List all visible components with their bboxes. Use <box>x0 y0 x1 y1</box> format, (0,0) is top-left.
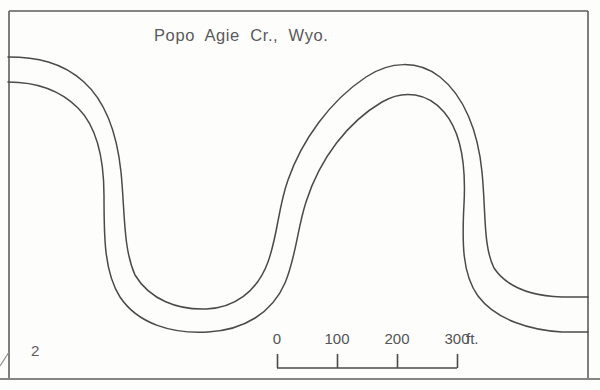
scale-label-200: 200 <box>374 330 420 347</box>
page-edge-artifact <box>0 352 9 366</box>
river-left-bank <box>8 57 588 309</box>
river-map-drawing <box>0 0 600 390</box>
river-right-bank <box>8 82 588 332</box>
figure-container: Popo Agie Cr., Wyo. 2 0 100 200 300 ft. <box>0 0 600 390</box>
scale-label-100: 100 <box>314 330 360 347</box>
figure-number-label: 2 <box>31 342 39 359</box>
scale-unit-label: ft. <box>466 330 479 347</box>
scale-label-0: 0 <box>254 330 300 347</box>
map-title: Popo Agie Cr., Wyo. <box>154 26 328 45</box>
